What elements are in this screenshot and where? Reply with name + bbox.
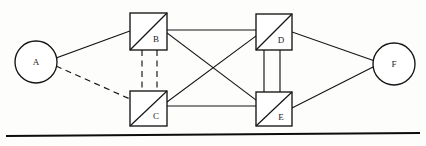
node-d[interactable]: D: [256, 14, 292, 50]
node-e-label: E: [278, 112, 284, 122]
node-b-label: B: [153, 34, 159, 44]
node-e[interactable]: E: [256, 92, 292, 126]
edge-d-f: [292, 32, 375, 61]
edge-a-b: [56, 31, 130, 58]
node-d-label: D: [278, 35, 285, 45]
edges-layer: [56, 30, 375, 108]
node-b[interactable]: B: [130, 13, 167, 50]
diagram-canvas: ABCDEF: [0, 0, 426, 146]
node-a[interactable]: A: [15, 41, 57, 83]
edge-e-f: [292, 66, 375, 108]
network-diagram: ABCDEF: [0, 0, 426, 146]
baseline-rule: [6, 133, 420, 136]
edge-a-c: [56, 66, 130, 99]
node-c-label: C: [153, 111, 159, 121]
node-c[interactable]: C: [130, 91, 167, 126]
edge-c-d: [167, 36, 256, 102]
node-f-label: F: [391, 59, 396, 69]
baseline-rule-layer: [6, 133, 420, 136]
edge-b-e: [167, 33, 256, 100]
node-a-label: A: [33, 57, 40, 67]
node-f[interactable]: F: [373, 43, 415, 85]
